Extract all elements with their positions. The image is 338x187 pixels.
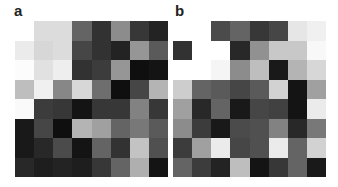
grid-cell	[288, 41, 307, 61]
grid-cell	[288, 138, 307, 158]
grid-cell	[92, 60, 111, 80]
grid-cell	[307, 158, 326, 178]
grid-cell	[307, 21, 326, 41]
grid-cell	[130, 21, 149, 41]
grid-cell	[230, 80, 249, 100]
grid-cell	[53, 21, 72, 41]
panel-b-label: b	[175, 3, 184, 18]
grid-cell	[173, 80, 192, 100]
grid-cell	[149, 21, 168, 41]
grid-cell	[111, 41, 130, 61]
grid-cell	[230, 138, 249, 158]
grid-cell	[230, 60, 249, 80]
grid-cell	[250, 80, 269, 100]
grid-cell	[15, 138, 34, 158]
grid-cell	[173, 60, 192, 80]
grid-cell	[111, 158, 130, 178]
grid-cell	[130, 158, 149, 178]
grid-cell	[288, 119, 307, 139]
grid-cell	[34, 60, 53, 80]
grid-cell	[149, 41, 168, 61]
grid-cell	[173, 158, 192, 178]
grid-cell	[34, 138, 53, 158]
grid-cell	[149, 99, 168, 119]
grid-cell	[211, 158, 230, 178]
grid-cell	[173, 41, 192, 61]
grid-cell	[53, 138, 72, 158]
grid-cell	[192, 41, 211, 61]
grid-cell	[307, 41, 326, 61]
grid-cell	[15, 119, 34, 139]
grid-cell	[250, 41, 269, 61]
grid-cell	[92, 119, 111, 139]
grid-cell	[53, 41, 72, 61]
grid-cell	[111, 99, 130, 119]
grid-cell	[15, 60, 34, 80]
grid-cell	[92, 138, 111, 158]
grid-cell	[192, 99, 211, 119]
grid-cell	[211, 138, 230, 158]
grid-cell	[111, 119, 130, 139]
grid-cell	[53, 158, 72, 178]
grid-cell	[269, 21, 288, 41]
grid-cell	[250, 119, 269, 139]
grid-cell	[211, 60, 230, 80]
grid-cell	[111, 138, 130, 158]
grid-cell	[230, 41, 249, 61]
grid-cell	[72, 41, 91, 61]
grid-cell	[53, 119, 72, 139]
grid-cell	[72, 119, 91, 139]
grid-cell	[288, 21, 307, 41]
grid-cell	[149, 80, 168, 100]
grid-cell	[130, 99, 149, 119]
grid-cell	[211, 119, 230, 139]
grid-cell	[53, 60, 72, 80]
grid-cell	[211, 21, 230, 41]
grid-cell	[173, 119, 192, 139]
grid-cell	[192, 21, 211, 41]
grid-cell	[173, 138, 192, 158]
grid-cell	[15, 41, 34, 61]
grid-cell	[173, 21, 192, 41]
grid-cell	[230, 119, 249, 139]
grid-cell	[34, 119, 53, 139]
grid-cell	[192, 80, 211, 100]
grid-cell	[269, 60, 288, 80]
grid-cell	[53, 99, 72, 119]
grid-cell	[307, 138, 326, 158]
grid-cell	[211, 99, 230, 119]
grid-cell	[288, 99, 307, 119]
grid-cell	[230, 21, 249, 41]
grid-cell	[72, 138, 91, 158]
grid-cell	[15, 21, 34, 41]
grid-cell	[269, 99, 288, 119]
grid-cell	[250, 138, 269, 158]
panel-a-label: a	[14, 3, 22, 18]
grid-cell	[15, 80, 34, 100]
grid-cell	[92, 99, 111, 119]
grid-cell	[250, 60, 269, 80]
grid-cell	[34, 158, 53, 178]
grid-cell	[288, 158, 307, 178]
grid-cell	[192, 138, 211, 158]
grid-cell	[92, 21, 111, 41]
grid-cell	[92, 41, 111, 61]
grid-cell	[72, 21, 91, 41]
grid-cell	[192, 119, 211, 139]
grid-cell	[149, 119, 168, 139]
grid-cell	[288, 60, 307, 80]
grid-cell	[34, 21, 53, 41]
grid-cell	[211, 41, 230, 61]
grid-cell	[307, 99, 326, 119]
grid-cell	[230, 158, 249, 178]
grid-cell	[92, 80, 111, 100]
grid-cell	[269, 158, 288, 178]
grid-cell	[130, 80, 149, 100]
grid-cell	[149, 60, 168, 80]
grid-cell	[130, 119, 149, 139]
grid-cell	[72, 99, 91, 119]
grid-cell	[149, 138, 168, 158]
grid-cell	[250, 21, 269, 41]
grid-cell	[111, 60, 130, 80]
grid-cell	[173, 99, 192, 119]
